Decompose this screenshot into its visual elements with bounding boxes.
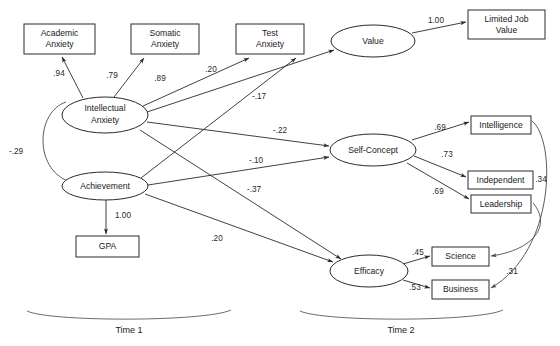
node-somatic-anxiety-label-2: Anxiety	[151, 39, 180, 49]
brace-time-2	[300, 310, 503, 319]
path-intellectual-anxiety-to-self-concept	[147, 122, 329, 146]
node-self-concept-label: Self-Concept	[348, 145, 398, 155]
node-value-label: Value	[362, 36, 384, 46]
path-intellectual-anxiety-to-efficacy	[140, 130, 341, 259]
node-value[interactable]: Value	[331, 25, 415, 57]
coef-intellectual-anxiety-value: .20	[205, 65, 217, 74]
coef-efficacy-science: .45	[412, 248, 424, 257]
brace-time-1	[27, 310, 231, 319]
coef-correlation-leadership-science: .31	[506, 267, 518, 276]
group-label-time-1: Time 1	[115, 325, 142, 335]
path-intellectual-anxiety-to-value	[147, 50, 334, 112]
node-leadership[interactable]: Leadership	[471, 195, 531, 213]
diagram-canvas: Academic Anxiety Somatic Anxiety Test An…	[0, 0, 560, 346]
node-business-label: Business	[443, 284, 478, 294]
node-achievement[interactable]: Achievement	[62, 172, 148, 200]
sem-path-diagram: Academic Anxiety Somatic Anxiety Test An…	[0, 0, 560, 346]
node-achievement-label: Achievement	[80, 181, 130, 191]
coef-achievement-test-anxiety: -.17	[252, 92, 267, 101]
coef-intellectual-anxiety-somatic-anxiety: .79	[106, 71, 118, 80]
node-gpa[interactable]: GPA	[76, 236, 139, 257]
path-self-concept-to-independent	[414, 156, 466, 177]
coef-intellectual-anxiety-self-concept: -.22	[273, 126, 288, 135]
node-gpa-label: GPA	[99, 241, 117, 251]
node-independent[interactable]: Independent	[468, 171, 533, 189]
node-efficacy-label: Efficacy	[354, 266, 385, 276]
node-intelligence[interactable]: Intelligence	[471, 116, 531, 134]
node-academic-anxiety-label-1: Academic	[41, 28, 79, 38]
path-intellectual-anxiety-to-somatic-anxiety	[114, 58, 144, 97]
coef-achievement-gpa: 1.00	[115, 211, 131, 220]
node-test-anxiety-label-2: Anxiety	[256, 39, 285, 49]
coef-self-concept-leadership: .69	[432, 187, 444, 196]
node-intellectual-anxiety-label-2: Anxiety	[91, 115, 120, 125]
coef-self-concept-independent: .73	[441, 150, 453, 159]
node-science[interactable]: Science	[432, 247, 489, 266]
coef-achievement-self-concept: -.10	[249, 156, 264, 165]
node-intellectual-anxiety-label-1: Intellectual	[84, 103, 125, 113]
coef-achievement-efficacy: .20	[211, 234, 223, 243]
path-achievement-to-efficacy	[145, 194, 333, 262]
node-business[interactable]: Business	[432, 280, 489, 299]
coef-correlation-intellectual-anxiety-achievement: -.29	[9, 147, 24, 156]
node-somatic-anxiety-label-1: Somatic	[149, 28, 181, 38]
coef-correlation-intelligence-business: .34	[535, 175, 547, 184]
coef-self-concept-intelligence: .69	[434, 123, 446, 132]
path-efficacy-to-science	[403, 256, 430, 264]
node-academic-anxiety[interactable]: Academic Anxiety	[24, 24, 95, 54]
node-science-label: Science	[445, 251, 476, 261]
coef-value-limited-job-value: 1.00	[428, 16, 444, 25]
coef-efficacy-business: .53	[409, 283, 421, 292]
node-limited-job-value-label-2: Value	[496, 25, 518, 35]
node-limited-job-value[interactable]: Limited Job Value	[468, 10, 545, 39]
node-test-anxiety-label-1: Test	[262, 28, 278, 38]
node-self-concept[interactable]: Self-Concept	[330, 134, 416, 166]
node-academic-anxiety-label-2: Anxiety	[45, 39, 74, 49]
coef-intellectual-anxiety-test-anxiety: .89	[154, 74, 166, 83]
node-limited-job-value-label-1: Limited Job	[485, 14, 529, 24]
node-efficacy[interactable]: Efficacy	[330, 255, 408, 287]
coef-intellectual-anxiety-efficacy: -.37	[247, 185, 262, 194]
node-intellectual-anxiety[interactable]: Intellectual Anxiety	[62, 97, 148, 133]
node-independent-label: Independent	[477, 175, 525, 185]
path-intellectual-anxiety-to-academic-anxiety	[62, 57, 83, 98]
node-leadership-label: Leadership	[480, 199, 523, 209]
observed-variables-group: Academic Anxiety Somatic Anxiety Test An…	[24, 10, 545, 299]
group-brace-container: Time 1 Time 2	[27, 310, 503, 335]
node-intelligence-label: Intelligence	[479, 120, 523, 130]
group-label-time-2: Time 2	[387, 325, 414, 335]
path-achievement-to-self-concept	[148, 157, 329, 185]
node-test-anxiety[interactable]: Test Anxiety	[236, 24, 304, 54]
node-somatic-anxiety[interactable]: Somatic Anxiety	[131, 24, 199, 54]
coef-intellectual-anxiety-academic-anxiety: .94	[53, 69, 65, 78]
